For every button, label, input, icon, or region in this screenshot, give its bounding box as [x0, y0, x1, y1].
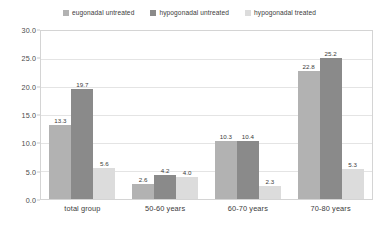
bar-slot: 5.6 — [93, 31, 115, 199]
bar-eugonadal-untreated[interactable]: 13.3 — [49, 125, 71, 199]
bar-value-label: 10.4 — [242, 133, 254, 140]
chart-legend: eugonadal untreated hypogonadal untreate… — [0, 9, 379, 16]
legend-item-eugonadal-untreated: eugonadal untreated — [63, 9, 134, 16]
bar-eugonadal-untreated[interactable]: 10.3 — [215, 141, 237, 199]
y-axis: 30.0 25.0 20.0 15.0 10.0 5.0 0.0 — [0, 30, 36, 200]
bar-group-total-group: 13.3 19.7 5.6 — [41, 31, 124, 199]
bar-value-label: 5.3 — [348, 161, 357, 168]
bar-slot: 10.3 — [215, 31, 237, 199]
bar-slot: 19.7 — [71, 31, 93, 199]
bar-value-label: 25.2 — [324, 50, 336, 57]
bar-hypogonadal-untreated[interactable]: 19.7 — [71, 89, 93, 199]
x-axis-category-label: 70-80 years — [289, 204, 372, 213]
bar-slot: 5.3 — [342, 31, 364, 199]
bar-slot: 4.2 — [154, 31, 176, 199]
legend-label: eugonadal untreated — [72, 9, 134, 16]
legend-swatch-icon — [63, 10, 69, 16]
legend-swatch-icon — [150, 10, 156, 16]
bar-slot: 22.8 — [298, 31, 320, 199]
bar-chart: eugonadal untreated hypogonadal untreate… — [0, 0, 379, 230]
legend-label: hypogonadal treated — [254, 9, 316, 16]
legend-item-hypogonadal-treated: hypogonadal treated — [245, 9, 316, 16]
bar-value-label: 10.3 — [220, 133, 232, 140]
bar-slot: 10.4 — [237, 31, 259, 199]
legend-item-hypogonadal-untreated: hypogonadal untreated — [150, 9, 229, 16]
bar-eugonadal-untreated[interactable]: 2.6 — [132, 184, 154, 199]
x-axis: total group 50-60 years 60-70 years 70-8… — [41, 204, 372, 213]
bar-slot: 13.3 — [49, 31, 71, 199]
bar-slot: 2.6 — [132, 31, 154, 199]
y-axis-tick-label: 5.0 — [0, 167, 36, 176]
bar-value-label: 2.6 — [139, 176, 148, 183]
bar-groups: 13.3 19.7 5.6 2.6 4.2 — [41, 31, 372, 199]
x-axis-category-label: 50-60 years — [124, 204, 207, 213]
y-axis-tick-label: 15.0 — [0, 111, 36, 120]
bar-value-label: 5.6 — [100, 160, 109, 167]
bar-slot: 25.2 — [320, 31, 342, 199]
bar-value-label: 19.7 — [76, 81, 88, 88]
y-axis-tick-label: 20.0 — [0, 82, 36, 91]
bar-value-label: 2.3 — [265, 178, 274, 185]
bar-value-label: 22.8 — [302, 63, 314, 70]
y-axis-tick-label: 10.0 — [0, 139, 36, 148]
x-axis-category-label: 60-70 years — [207, 204, 290, 213]
bar-hypogonadal-treated[interactable]: 5.6 — [93, 168, 115, 199]
bar-hypogonadal-untreated[interactable]: 10.4 — [237, 141, 259, 199]
bar-group-50-60-years: 2.6 4.2 4.0 — [124, 31, 207, 199]
y-axis-tick-label: 30.0 — [0, 26, 36, 35]
bar-hypogonadal-untreated[interactable]: 4.2 — [154, 175, 176, 199]
bar-hypogonadal-treated[interactable]: 2.3 — [259, 186, 281, 199]
bar-eugonadal-untreated[interactable]: 22.8 — [298, 71, 320, 199]
y-axis-tick-label: 0.0 — [0, 196, 36, 205]
y-axis-tick-label: 25.0 — [0, 54, 36, 63]
bar-value-label: 4.2 — [161, 167, 170, 174]
bar-group-60-70-years: 10.3 10.4 2.3 — [207, 31, 290, 199]
bar-hypogonadal-treated[interactable]: 4.0 — [176, 177, 198, 199]
bar-value-label: 4.0 — [183, 169, 192, 176]
bar-value-label: 13.3 — [54, 117, 66, 124]
x-axis-category-label: total group — [41, 204, 124, 213]
bar-slot: 2.3 — [259, 31, 281, 199]
bar-hypogonadal-treated[interactable]: 5.3 — [342, 169, 364, 199]
legend-swatch-icon — [245, 10, 251, 16]
bar-group-70-80-years: 22.8 25.2 5.3 — [289, 31, 372, 199]
bar-hypogonadal-untreated[interactable]: 25.2 — [320, 58, 342, 199]
bar-slot: 4.0 — [176, 31, 198, 199]
legend-label: hypogonadal untreated — [159, 9, 229, 16]
